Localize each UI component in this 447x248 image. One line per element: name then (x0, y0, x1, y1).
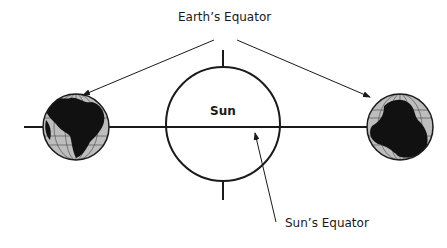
arrow-to-sun-equator (255, 133, 276, 222)
earth-equator-label: Earth’s Equator (178, 10, 271, 24)
sun (166, 50, 280, 200)
arrow-to-left-earth (83, 40, 214, 95)
arrow-to-right-earth (237, 40, 370, 97)
sun-label: Sun (210, 104, 236, 118)
sun-equator-label: Sun’s Equator (285, 216, 369, 230)
diagram-svg (0, 0, 447, 248)
sun-earth-equator-diagram: Earth’s Equator Sun Sun’s Equator (0, 0, 447, 248)
earth-globe-left (43, 94, 109, 160)
earth-globe-right (367, 94, 433, 160)
